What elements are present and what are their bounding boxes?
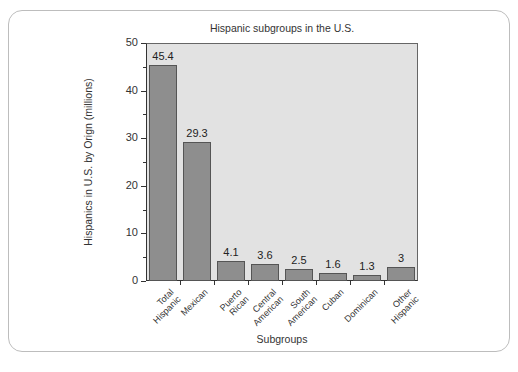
- y-axis-title: Hispanics in U.S. by Orign (millions): [82, 78, 94, 245]
- x-tick: [248, 281, 249, 285]
- x-tick: [282, 281, 283, 285]
- y-tick: [141, 138, 146, 139]
- y-tick: [141, 91, 146, 92]
- x-tick: [214, 281, 215, 285]
- x-axis-title: Subgroups: [146, 333, 418, 345]
- chart-title: Hispanic subgroups in the U.S.: [146, 22, 418, 34]
- y-tick-label: 0: [114, 274, 138, 286]
- bar-value-label: 3.6: [248, 249, 282, 261]
- y-tick-minor: [143, 257, 146, 258]
- y-tick-minor: [143, 114, 146, 115]
- bar-dominican: [353, 275, 381, 281]
- bar-central-american: [251, 264, 279, 281]
- y-tick-label: 10: [114, 226, 138, 238]
- bar-value-label: 3: [384, 252, 418, 264]
- y-tick-label: 30: [114, 131, 138, 143]
- y-tick-minor: [143, 210, 146, 211]
- y-tick: [141, 43, 146, 44]
- x-tick: [180, 281, 181, 285]
- y-tick-label: 40: [114, 84, 138, 96]
- y-tick-minor: [143, 162, 146, 163]
- bar-total-hispanic: [149, 65, 177, 281]
- bar-mexican: [183, 142, 211, 281]
- y-tick: [141, 186, 146, 187]
- x-tick: [316, 281, 317, 285]
- y-tick-label: 50: [114, 36, 138, 48]
- bar-south-american: [285, 269, 313, 281]
- x-tick: [384, 281, 385, 285]
- y-tick: [141, 233, 146, 234]
- y-tick-minor: [143, 67, 146, 68]
- y-tick: [141, 281, 146, 282]
- bar-value-label: 29.3: [180, 127, 214, 139]
- bar-value-label: 1.6: [316, 258, 350, 270]
- bar-puerto-rican: [217, 261, 245, 281]
- bar-other-hispanic: [387, 267, 415, 281]
- bar-value-label: 4.1: [214, 246, 248, 258]
- bar-value-label: 1.3: [350, 260, 384, 272]
- x-tick: [350, 281, 351, 285]
- bar-value-label: 45.4: [146, 50, 180, 62]
- bar-cuban: [319, 273, 347, 281]
- bar-value-label: 2.5: [282, 254, 316, 266]
- y-tick-label: 20: [114, 179, 138, 191]
